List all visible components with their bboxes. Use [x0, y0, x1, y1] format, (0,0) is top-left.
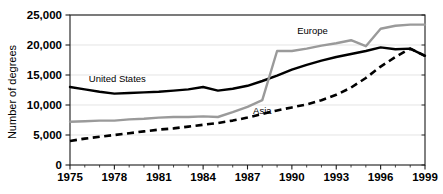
series-label-europe: Europe — [297, 25, 328, 36]
series-label-asia: Asia — [253, 105, 272, 116]
series-line-united-states — [70, 47, 425, 93]
x-axis-tick-labels: 197519781981198419871990199319961999 — [57, 171, 438, 183]
x-tick-label: 1996 — [368, 171, 394, 183]
chart-container: 197519781981198419871990199319961999 05,… — [0, 0, 443, 194]
series-label-united-states: United States — [89, 73, 146, 84]
series-line-asia — [70, 49, 425, 141]
x-tick-label: 1993 — [323, 171, 349, 183]
line-chart: 197519781981198419871990199319961999 05,… — [0, 0, 443, 194]
x-tick-label: 1999 — [412, 171, 438, 183]
x-tick-label: 1981 — [146, 171, 172, 183]
y-tick-label: 10,000 — [27, 99, 62, 111]
x-tick-label: 1978 — [102, 171, 128, 183]
y-axis-title: Number of degrees — [6, 44, 18, 139]
y-tick-label: 5,000 — [33, 129, 62, 141]
x-axis-ticks — [70, 165, 425, 170]
y-axis-ticks — [66, 15, 426, 165]
x-tick-label: 1990 — [279, 171, 305, 183]
y-tick-label: 15,000 — [27, 69, 62, 81]
y-tick-label: 20,000 — [27, 39, 62, 51]
y-tick-label: 25,000 — [27, 9, 62, 21]
x-tick-label: 1975 — [57, 171, 83, 183]
y-tick-label: 0 — [56, 159, 62, 171]
y-axis-tick-labels: 05,00010,00015,00020,00025,000 — [27, 9, 62, 171]
x-tick-label: 1987 — [235, 171, 261, 183]
x-tick-label: 1984 — [190, 171, 216, 183]
